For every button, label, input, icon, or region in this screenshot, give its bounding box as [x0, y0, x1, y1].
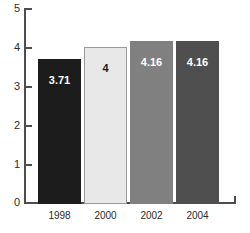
bar-1998: 3.71: [38, 59, 81, 204]
bar-value-label-2002: 4.16: [131, 57, 172, 68]
bar-chart: 5 4 3 2 1 0 3.71 4 4.16 4.16 1998 2000 2…: [0, 0, 250, 233]
plot-area: 3.71 4 4.16 4.16: [0, 0, 250, 233]
x-axis-category-label-2004: 2004: [176, 211, 219, 221]
x-axis-category-label-2002: 2002: [130, 211, 173, 221]
x-axis-category-label-1998: 1998: [38, 211, 81, 221]
bar-value-label-1998: 3.71: [39, 75, 80, 86]
bar-2002: 4.16: [130, 41, 173, 204]
bar-2000: 4: [84, 47, 127, 204]
bar-2004: 4.16: [176, 41, 219, 204]
bar-value-label-2004: 4.16: [177, 57, 218, 68]
x-axis-category-label-2000: 2000: [84, 211, 127, 221]
bar-value-label-2000: 4: [85, 63, 126, 74]
